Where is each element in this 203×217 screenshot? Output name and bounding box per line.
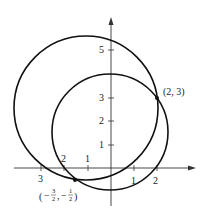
intersection-point-lower: [73, 178, 77, 182]
x-tick-label-2: 2: [153, 175, 158, 186]
frac2-num: 1: [69, 187, 72, 194]
x-axis-arrow-icon: [188, 166, 196, 171]
minus-sign-2: −: [61, 190, 67, 201]
intersection-point-upper: [155, 96, 159, 100]
y-tick-label-2: 2: [99, 115, 104, 126]
y-tick-label-5: 5: [99, 44, 104, 55]
paren-open: (: [39, 191, 43, 203]
y-axis: [109, 17, 114, 206]
x-tick-label-neg2: 2: [61, 153, 66, 164]
y-axis-arrow-icon: [109, 17, 114, 25]
comma: ,: [57, 190, 60, 201]
frac2-den: 2: [69, 195, 72, 202]
x-tick-label-neg1: 1: [85, 153, 90, 164]
point-label-upper: (2, 3): [163, 86, 185, 98]
paren-close: ): [74, 191, 77, 203]
frac1-den: 2: [52, 195, 55, 202]
y-tick-label-3: 3: [99, 92, 104, 103]
point-label-lower: ( − 3 2 , − 1 2 ): [39, 187, 77, 203]
x-tick-label-neg3: 3: [38, 173, 43, 184]
small-circle: [52, 74, 168, 190]
minus-sign-1: −: [44, 190, 50, 201]
y-tick-label-1: 1: [99, 139, 104, 150]
diagram-canvas: 1 2 1 2 3 1 2 3 5 (2, 3) ( − 3 2 , − 1 2…: [0, 0, 203, 217]
frac1-num: 3: [52, 187, 55, 194]
